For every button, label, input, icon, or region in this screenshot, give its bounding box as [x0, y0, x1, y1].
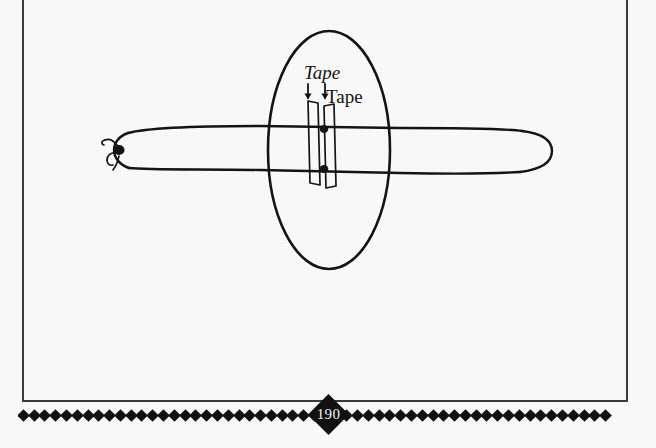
- label-tape-italic: Tape: [304, 63, 340, 82]
- page-number-badge: 190: [310, 396, 347, 433]
- pin-dot-bottom-icon: [320, 165, 329, 173]
- pin-dot-top-icon: [320, 125, 329, 133]
- page-canvas: Tape Tape 190: [0, 0, 656, 448]
- page-number-text: 190: [317, 407, 340, 422]
- label-tape-upright: Tape: [326, 87, 363, 106]
- down-arrow-left-icon: [304, 84, 311, 100]
- balloon-knot-icon: [102, 139, 125, 170]
- balloon-outline: [114, 126, 552, 174]
- tape-strip-right: [324, 104, 336, 188]
- ornament-diamond-icon: [599, 409, 612, 422]
